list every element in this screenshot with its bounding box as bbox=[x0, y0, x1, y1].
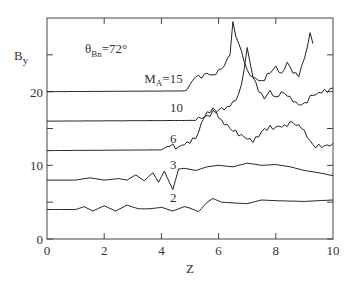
series-label: 10 bbox=[170, 100, 183, 115]
series-label: 6 bbox=[170, 131, 177, 146]
y-tick-label: 0 bbox=[37, 232, 44, 247]
tick-labels: 024681001020 bbox=[30, 85, 340, 258]
chart: 024681001020 MA=1510632 By Z θBn=72° bbox=[0, 0, 355, 281]
x-axis-label: Z bbox=[186, 261, 194, 276]
x-tick-label: 8 bbox=[273, 243, 280, 258]
series-label: 2 bbox=[170, 190, 177, 205]
series-line-m-a-6 bbox=[47, 108, 333, 151]
series-line-m-a-2 bbox=[47, 199, 333, 212]
series-label: MA=15 bbox=[144, 71, 182, 88]
theta-annotation: θBn=72° bbox=[85, 41, 127, 59]
x-tick-label: 0 bbox=[44, 243, 51, 258]
x-tick-label: 4 bbox=[158, 243, 165, 258]
y-tick-label: 10 bbox=[30, 158, 43, 173]
x-tick-label: 6 bbox=[215, 243, 222, 258]
x-tick-label: 10 bbox=[327, 243, 340, 258]
series-line-m-a-3 bbox=[47, 163, 333, 190]
y-tick-label: 20 bbox=[30, 85, 43, 100]
series-label: 3 bbox=[170, 157, 177, 172]
y-axis-label: By bbox=[14, 48, 29, 66]
x-tick-label: 2 bbox=[101, 243, 108, 258]
